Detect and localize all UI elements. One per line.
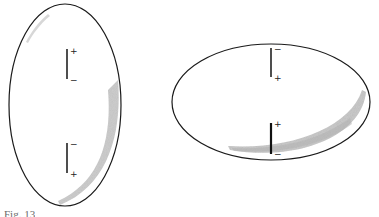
sign-minus: − — [70, 75, 78, 85]
sign-plus: + — [274, 119, 282, 129]
horizontal-ellipse-panel: − + + − — [172, 44, 370, 160]
sign-minus: − — [274, 44, 282, 54]
sign-minus: − — [70, 139, 78, 149]
dipole-left-upper: + − — [67, 46, 78, 85]
shading-crescent — [228, 90, 366, 153]
figure-canvas: + − − + − + + − — [0, 0, 379, 217]
dipole-right-lower: + − — [271, 119, 282, 159]
sign-plus: + — [70, 169, 78, 179]
sign-plus: + — [70, 46, 78, 56]
dipole-right-upper: − + — [271, 44, 282, 83]
sign-minus: − — [274, 149, 282, 159]
vertical-ellipse-outline — [9, 4, 121, 206]
vertical-ellipse-panel: + − − + — [9, 4, 121, 206]
dipole-left-lower: − + — [67, 139, 78, 179]
figure-caption: Fig. 13 — [4, 209, 35, 217]
sign-plus: + — [274, 73, 282, 83]
